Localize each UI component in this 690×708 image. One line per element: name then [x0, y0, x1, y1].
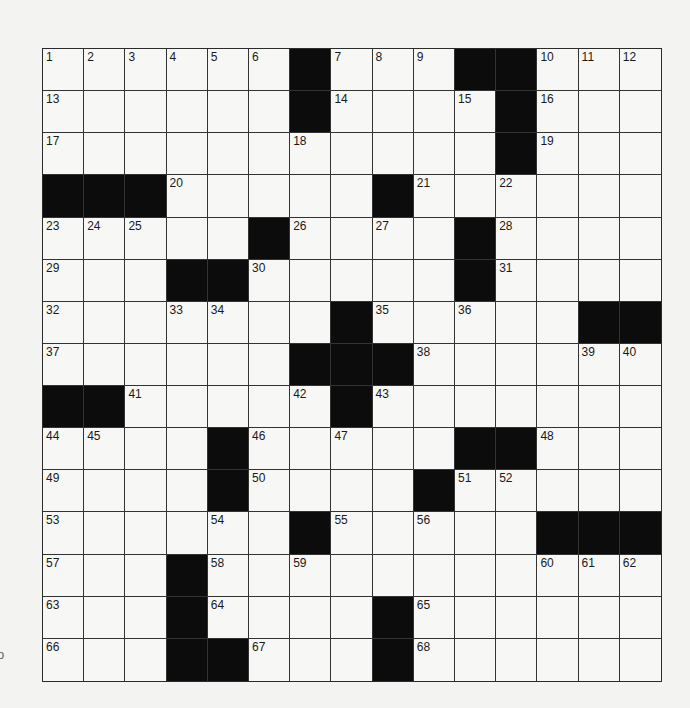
- grid-cell[interactable]: [620, 597, 661, 639]
- grid-cell[interactable]: [125, 470, 166, 512]
- grid-cell[interactable]: [167, 470, 208, 512]
- grid-cell[interactable]: 5: [208, 49, 249, 91]
- grid-cell[interactable]: [331, 470, 372, 512]
- grid-cell[interactable]: 11: [579, 49, 620, 91]
- grid-cell[interactable]: [373, 555, 414, 597]
- grid-cell[interactable]: [208, 344, 249, 386]
- grid-cell[interactable]: 60: [537, 555, 578, 597]
- grid-cell[interactable]: [579, 428, 620, 470]
- grid-cell[interactable]: 49: [43, 470, 84, 512]
- grid-cell[interactable]: [290, 260, 331, 302]
- grid-cell[interactable]: [496, 386, 537, 428]
- grid-cell[interactable]: [579, 260, 620, 302]
- grid-cell[interactable]: [620, 470, 661, 512]
- grid-cell[interactable]: 17: [43, 133, 84, 175]
- grid-cell[interactable]: 54: [208, 512, 249, 554]
- grid-cell[interactable]: [84, 260, 125, 302]
- grid-cell[interactable]: [290, 302, 331, 344]
- grid-cell[interactable]: 21: [414, 175, 455, 217]
- grid-cell[interactable]: [331, 133, 372, 175]
- grid-cell[interactable]: 25: [125, 218, 166, 260]
- grid-cell[interactable]: [373, 91, 414, 133]
- grid-cell[interactable]: 58: [208, 555, 249, 597]
- grid-cell[interactable]: [579, 218, 620, 260]
- grid-cell[interactable]: [84, 512, 125, 554]
- grid-cell[interactable]: [249, 175, 290, 217]
- grid-cell[interactable]: 28: [496, 218, 537, 260]
- grid-cell[interactable]: [167, 344, 208, 386]
- grid-cell[interactable]: [620, 91, 661, 133]
- grid-cell[interactable]: [414, 386, 455, 428]
- grid-cell[interactable]: [331, 175, 372, 217]
- grid-cell[interactable]: [496, 639, 537, 681]
- grid-cell[interactable]: [579, 470, 620, 512]
- grid-cell[interactable]: [496, 512, 537, 554]
- grid-cell[interactable]: 7: [331, 49, 372, 91]
- grid-cell[interactable]: [290, 428, 331, 470]
- grid-cell[interactable]: [84, 597, 125, 639]
- grid-cell[interactable]: [455, 639, 496, 681]
- grid-cell[interactable]: 20: [167, 175, 208, 217]
- grid-cell[interactable]: 50: [249, 470, 290, 512]
- grid-cell[interactable]: [125, 133, 166, 175]
- grid-cell[interactable]: 9: [414, 49, 455, 91]
- grid-cell[interactable]: [414, 428, 455, 470]
- grid-cell[interactable]: [249, 133, 290, 175]
- grid-cell[interactable]: [537, 386, 578, 428]
- grid-cell[interactable]: 39: [579, 344, 620, 386]
- grid-cell[interactable]: [167, 91, 208, 133]
- grid-cell[interactable]: 68: [414, 639, 455, 681]
- grid-cell[interactable]: [249, 555, 290, 597]
- grid-cell[interactable]: 33: [167, 302, 208, 344]
- grid-cell[interactable]: 24: [84, 218, 125, 260]
- grid-cell[interactable]: [455, 597, 496, 639]
- grid-cell[interactable]: [579, 597, 620, 639]
- grid-cell[interactable]: 51: [455, 470, 496, 512]
- grid-cell[interactable]: [579, 386, 620, 428]
- grid-cell[interactable]: [167, 386, 208, 428]
- grid-cell[interactable]: 34: [208, 302, 249, 344]
- grid-cell[interactable]: [414, 218, 455, 260]
- grid-cell[interactable]: [414, 133, 455, 175]
- grid-cell[interactable]: [125, 302, 166, 344]
- grid-cell[interactable]: 47: [331, 428, 372, 470]
- grid-cell[interactable]: [290, 597, 331, 639]
- grid-cell[interactable]: [414, 91, 455, 133]
- grid-cell[interactable]: [455, 555, 496, 597]
- grid-cell[interactable]: [290, 175, 331, 217]
- grid-cell[interactable]: 41: [125, 386, 166, 428]
- grid-cell[interactable]: 6: [249, 49, 290, 91]
- grid-cell[interactable]: [579, 175, 620, 217]
- grid-cell[interactable]: [620, 133, 661, 175]
- grid-cell[interactable]: 23: [43, 218, 84, 260]
- grid-cell[interactable]: 46: [249, 428, 290, 470]
- grid-cell[interactable]: 12: [620, 49, 661, 91]
- grid-cell[interactable]: [331, 218, 372, 260]
- grid-cell[interactable]: [84, 133, 125, 175]
- grid-cell[interactable]: 3: [125, 49, 166, 91]
- grid-cell[interactable]: [537, 344, 578, 386]
- grid-cell[interactable]: [537, 218, 578, 260]
- grid-cell[interactable]: 31: [496, 260, 537, 302]
- grid-cell[interactable]: 35: [373, 302, 414, 344]
- grid-cell[interactable]: 37: [43, 344, 84, 386]
- grid-cell[interactable]: 61: [579, 555, 620, 597]
- grid-cell[interactable]: 67: [249, 639, 290, 681]
- grid-cell[interactable]: [537, 260, 578, 302]
- grid-cell[interactable]: [167, 512, 208, 554]
- grid-cell[interactable]: [84, 639, 125, 681]
- grid-cell[interactable]: 16: [537, 91, 578, 133]
- grid-cell[interactable]: [125, 597, 166, 639]
- grid-cell[interactable]: [125, 91, 166, 133]
- grid-cell[interactable]: [537, 175, 578, 217]
- grid-cell[interactable]: 55: [331, 512, 372, 554]
- grid-cell[interactable]: [331, 260, 372, 302]
- grid-cell[interactable]: [249, 386, 290, 428]
- grid-cell[interactable]: [208, 175, 249, 217]
- grid-cell[interactable]: [373, 260, 414, 302]
- grid-cell[interactable]: 64: [208, 597, 249, 639]
- grid-cell[interactable]: 10: [537, 49, 578, 91]
- grid-cell[interactable]: [125, 639, 166, 681]
- grid-cell[interactable]: [496, 597, 537, 639]
- grid-cell[interactable]: [290, 639, 331, 681]
